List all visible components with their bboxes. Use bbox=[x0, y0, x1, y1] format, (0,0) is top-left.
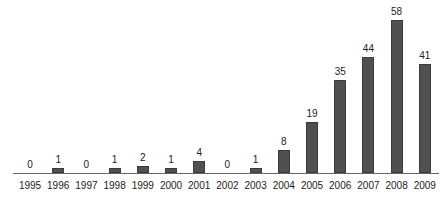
bar-2003 bbox=[250, 168, 262, 173]
bar-2007 bbox=[362, 57, 374, 173]
x-tick-label-2005: 2005 bbox=[297, 180, 327, 191]
x-tick-label-2004: 2004 bbox=[269, 180, 299, 191]
bar-2006 bbox=[334, 80, 346, 173]
value-label-2009: 41 bbox=[410, 50, 440, 61]
value-label-2007: 44 bbox=[353, 43, 383, 54]
bar-2001 bbox=[193, 161, 205, 173]
value-label-1998: 1 bbox=[100, 154, 130, 165]
x-tick-label-2002: 2002 bbox=[212, 180, 242, 191]
value-label-2002: 0 bbox=[212, 159, 242, 170]
x-tick-label-1995: 1995 bbox=[15, 180, 45, 191]
value-label-2005: 19 bbox=[297, 108, 327, 119]
bar-2005 bbox=[306, 122, 318, 173]
bar-2000 bbox=[165, 168, 177, 173]
bar-2004 bbox=[278, 150, 290, 173]
x-tick-label-1998: 1998 bbox=[100, 180, 130, 191]
x-tick-label-2006: 2006 bbox=[325, 180, 355, 191]
bar-1996 bbox=[52, 168, 64, 173]
x-tick-label-1999: 1999 bbox=[128, 180, 158, 191]
x-tick-label-2008: 2008 bbox=[382, 180, 412, 191]
bar-chart: 0199511996019971199821999120004200102002… bbox=[0, 0, 447, 201]
x-tick-label-2000: 2000 bbox=[156, 180, 186, 191]
bar-2009 bbox=[419, 64, 431, 173]
x-tick-label-2003: 2003 bbox=[241, 180, 271, 191]
value-label-1999: 2 bbox=[128, 152, 158, 163]
x-tick-label-2007: 2007 bbox=[353, 180, 383, 191]
value-label-2000: 1 bbox=[156, 154, 186, 165]
x-tick-label-2001: 2001 bbox=[184, 180, 214, 191]
bar-1998 bbox=[109, 168, 121, 173]
x-tick-label-1997: 1997 bbox=[71, 180, 101, 191]
value-label-1997: 0 bbox=[71, 159, 101, 170]
x-tick-label-1996: 1996 bbox=[43, 180, 73, 191]
x-tick-label-2009: 2009 bbox=[410, 180, 440, 191]
value-label-2006: 35 bbox=[325, 66, 355, 77]
x-axis-line bbox=[13, 173, 439, 174]
value-label-2001: 4 bbox=[184, 147, 214, 158]
bar-1999 bbox=[137, 166, 149, 173]
bar-2008 bbox=[391, 20, 403, 173]
value-label-1996: 1 bbox=[43, 154, 73, 165]
value-label-2008: 58 bbox=[382, 6, 412, 17]
value-label-2003: 1 bbox=[241, 154, 271, 165]
value-label-1995: 0 bbox=[15, 159, 45, 170]
value-label-2004: 8 bbox=[269, 136, 299, 147]
